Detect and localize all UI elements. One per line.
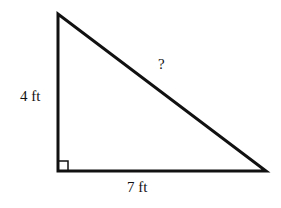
right-triangle [58, 14, 266, 171]
triangle-diagram: 4 ft ? 7 ft [0, 0, 281, 208]
triangle-figure [0, 0, 281, 208]
vertical-leg-label: 4 ft [20, 89, 40, 104]
horizontal-leg-label: 7 ft [127, 180, 147, 195]
hypotenuse-label: ? [158, 57, 165, 72]
